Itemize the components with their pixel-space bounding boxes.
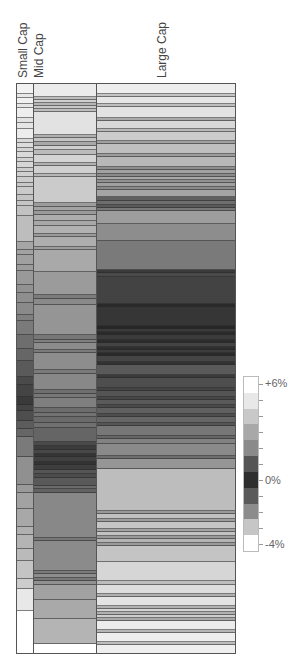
heatmap-band (97, 621, 235, 630)
heatmap-band (97, 469, 235, 511)
heatmap-band (17, 255, 33, 265)
heatmap-band (97, 84, 235, 94)
heatmap-band (97, 378, 235, 388)
heatmap-band (97, 211, 235, 224)
column-label-large-cap: Large Cap (155, 22, 169, 78)
heatmap-column-small-cap (16, 83, 34, 654)
heatmap-band (17, 242, 33, 250)
heatmap-band (17, 397, 33, 405)
heatmap-band (17, 206, 33, 216)
column-label-mid-cap: Mid Cap (32, 33, 46, 78)
heatmap-band (17, 421, 33, 429)
color-legend (243, 376, 259, 552)
heatmap-band (17, 377, 33, 385)
heatmap-band (97, 645, 235, 654)
legend-label-top: +6% (265, 377, 287, 389)
heatmap-band (34, 374, 96, 390)
heatmap-band (34, 166, 96, 174)
heatmap-band (17, 385, 33, 397)
heatmap-band (17, 335, 33, 349)
heatmap-band (17, 84, 33, 94)
heatmap-band (17, 321, 33, 335)
heatmap-band (17, 493, 33, 509)
legend-swatch (244, 488, 258, 504)
legend-tick (259, 480, 263, 481)
heatmap-band (34, 398, 96, 408)
heatmap-band (34, 619, 96, 644)
legend-tick (259, 496, 263, 497)
legend-label-zero: 0% (265, 474, 281, 486)
legend-swatch (244, 377, 258, 393)
legend-label-bottom: -4% (265, 538, 285, 550)
heatmap-band (97, 633, 235, 642)
heatmap-band (17, 129, 33, 139)
legend-tick (259, 512, 263, 513)
heatmap-band (97, 307, 235, 326)
heatmap-band (97, 585, 235, 594)
legend-swatch (244, 519, 258, 535)
heatmap-band (34, 177, 96, 203)
heatmap-band (34, 112, 96, 135)
heatmap-band (34, 84, 96, 97)
legend-swatch (244, 504, 258, 520)
heatmap-band (17, 589, 33, 611)
heatmap-band (17, 349, 33, 361)
legend-tick (259, 400, 263, 401)
heatmap-band (97, 132, 235, 141)
legend-swatch (244, 409, 258, 425)
heatmap-band (97, 444, 235, 456)
heatmap-band (34, 272, 96, 295)
heatmap-band (34, 600, 96, 619)
heatmap-band (17, 271, 33, 285)
legend-swatch (244, 456, 258, 472)
heatmap-band (17, 509, 33, 527)
heatmap-band (97, 277, 235, 304)
heatmap-band (97, 459, 235, 469)
heatmap-band (17, 429, 33, 437)
heatmap-band (34, 478, 96, 486)
legend-tick (259, 544, 263, 545)
legend-swatch (244, 393, 258, 409)
heatmap-band (17, 579, 33, 589)
heatmap-band (17, 293, 33, 303)
heatmap-band (17, 216, 33, 242)
heatmap-band (97, 597, 235, 606)
heatmap-band (97, 365, 235, 375)
legend-tick (259, 416, 263, 417)
heatmap-band (17, 437, 33, 457)
heatmap-band (17, 549, 33, 561)
heatmap-band (97, 121, 235, 129)
heatmap-band (97, 157, 235, 167)
heatmap-column-mid-cap (33, 83, 97, 654)
heatmap-band (34, 353, 96, 370)
heatmap-band (97, 426, 235, 436)
heatmap-band (17, 527, 33, 535)
heatmap-band (34, 585, 96, 600)
legend-tick (259, 384, 263, 385)
legend-tick (259, 448, 263, 449)
heatmap-band (17, 361, 33, 377)
heatmap-band (34, 155, 96, 163)
heatmap-band (34, 541, 96, 571)
heatmap-band (34, 343, 96, 350)
heatmap-band (17, 411, 33, 421)
heatmap-column-large-cap (96, 83, 236, 654)
legend-swatch (244, 472, 258, 488)
heatmap-band (17, 303, 33, 315)
heatmap-band (17, 187, 33, 195)
heatmap-band (17, 535, 33, 549)
heatmap-band (97, 97, 235, 104)
heatmap-band (34, 493, 96, 538)
heatmap-band (97, 241, 235, 270)
heatmap-band (34, 428, 96, 442)
heatmap-band (17, 285, 33, 293)
heatmap-band (34, 237, 96, 247)
heatmap-band (97, 546, 235, 562)
heatmap-band (97, 107, 235, 118)
column-label-small-cap: Small Cap (16, 23, 30, 78)
heatmap-band (97, 144, 235, 154)
heatmap-band (34, 305, 96, 335)
heatmap-band (17, 108, 33, 118)
legend-tick (259, 432, 263, 433)
legend-swatch (244, 440, 258, 456)
